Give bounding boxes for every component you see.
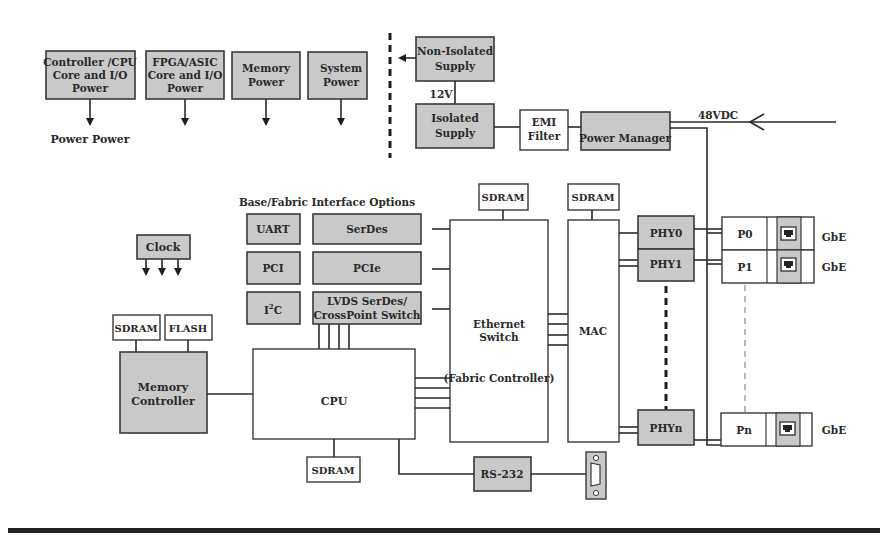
iface-label: UART — [256, 223, 290, 235]
rail-label: Core and I/O — [53, 69, 128, 81]
mac-sdram: SDRAM — [568, 184, 619, 210]
port-p0: P0 — [722, 217, 814, 250]
power-rail-fpga-asic: FPGA/ASIC Core and I/O Power — [146, 51, 224, 122]
clock-label: Clock — [146, 241, 181, 254]
filter-label: Filter — [528, 130, 561, 142]
power-trunk — [670, 128, 722, 445]
port-label: P1 — [737, 261, 752, 273]
cpu-block: CPU — [253, 349, 415, 439]
iface-label: SerDes — [346, 223, 388, 235]
wire — [399, 439, 474, 474]
port-label: Pn — [736, 424, 752, 436]
switch-label: Ethernet — [473, 318, 525, 330]
filter-label: EMI — [532, 116, 557, 128]
input-voltage-label: 48VDC — [698, 109, 738, 121]
sdram-label: SDRAM — [114, 323, 157, 334]
rail-label: Core and I/O — [148, 69, 223, 81]
power-rail-memory: Memory Power — [232, 52, 300, 122]
non-isolated-supply: Non-Isolated Supply — [416, 37, 494, 81]
power-caption: Power Power — [51, 133, 130, 146]
port-type-label: GbE — [822, 261, 846, 273]
power-manager-label: Power Manager — [579, 132, 671, 144]
bottom-rule — [8, 528, 880, 533]
pci-box: PCI — [247, 252, 300, 284]
iface-label: LVDS SerDes/ — [327, 295, 407, 307]
mc-label: Controller — [131, 395, 195, 408]
rj45-icon — [781, 227, 796, 240]
power-rail-controller-cpu: Controller /CPU Core and I/O Power Power… — [43, 51, 136, 146]
supply-label: Supply — [435, 127, 476, 139]
mac-block: MAC — [568, 220, 619, 442]
power-manager: Power Manager — [579, 112, 671, 150]
phy-label: PHY0 — [650, 227, 683, 239]
sdram-memory: SDRAM — [113, 315, 160, 340]
serdes-box: SerDes — [313, 214, 421, 244]
sdram-label: SDRAM — [311, 465, 354, 476]
flash-label: FLASH — [169, 323, 208, 334]
memory-controller: Memory Controller — [120, 352, 207, 433]
block-diagram: Controller /CPU Core and I/O Power Power… — [0, 0, 891, 540]
emi-filter: EMI Filter — [520, 110, 568, 150]
supply-label: Non-Isolated — [417, 45, 494, 57]
sdram-label: SDRAM — [481, 192, 524, 203]
rail-label: FPGA/ASIC — [152, 56, 217, 68]
port-p1: P1 — [722, 250, 814, 283]
phy-label: PHY1 — [650, 258, 683, 270]
phyn: PHYn — [638, 410, 694, 445]
interface-options-title: Base/Fabric Interface Options — [239, 196, 415, 208]
switch-sublabel: (Fabric Controller) — [443, 372, 554, 384]
iface-label: I2C — [264, 302, 282, 316]
power-rail-system: System Power — [308, 52, 367, 122]
switch-label: Switch — [479, 331, 519, 343]
supply-label: Isolated — [431, 112, 479, 124]
iface-label: PCI — [262, 262, 283, 274]
rail-label: Memory — [242, 62, 291, 74]
rs232-label: RS-232 — [481, 468, 524, 480]
phy-label: PHYn — [650, 422, 683, 434]
mac-label: MAC — [579, 325, 607, 337]
lvds-box: LVDS SerDes/ CrossPoint Switch — [313, 292, 421, 324]
i2c-box: I2C — [247, 292, 300, 324]
port-type-label: GbE — [822, 231, 846, 243]
pcie-box: PCIe — [313, 252, 421, 284]
db9-connector-icon — [586, 452, 606, 499]
voltage-label: 12V — [430, 88, 454, 100]
port-label: P0 — [737, 228, 752, 240]
rail-label: Power — [248, 76, 284, 88]
iface-label: CrossPoint Switch — [314, 309, 421, 321]
switch-sdram: SDRAM — [479, 184, 528, 210]
mc-label: Memory — [138, 381, 189, 394]
cpu-sdram: SDRAM — [307, 457, 360, 482]
port-pn: Pn — [721, 413, 812, 446]
ethernet-switch: Ethernet Switch (Fabric Controller) — [443, 220, 554, 442]
phy1: PHY1 — [638, 249, 694, 281]
isolated-supply: Isolated Supply — [416, 104, 494, 148]
rail-label: Power — [72, 82, 108, 94]
phy0: PHY0 — [638, 216, 694, 249]
uart-box: UART — [247, 214, 300, 244]
flash-memory: FLASH — [165, 315, 212, 340]
clock-box: Clock — [137, 235, 190, 259]
rj45-icon — [781, 258, 796, 271]
cpu-label: CPU — [321, 395, 348, 408]
rj45-icon — [780, 422, 795, 435]
rail-label: Controller /CPU — [43, 56, 136, 68]
iface-label: PCIe — [353, 262, 381, 274]
port-type-label: GbE — [822, 424, 846, 436]
rail-label: Power — [167, 82, 203, 94]
rail-label: System — [320, 62, 362, 74]
rail-label: Power — [323, 76, 359, 88]
supply-label: Supply — [435, 60, 476, 72]
rs232-box: RS-232 — [474, 457, 531, 491]
sdram-label: SDRAM — [571, 192, 614, 203]
